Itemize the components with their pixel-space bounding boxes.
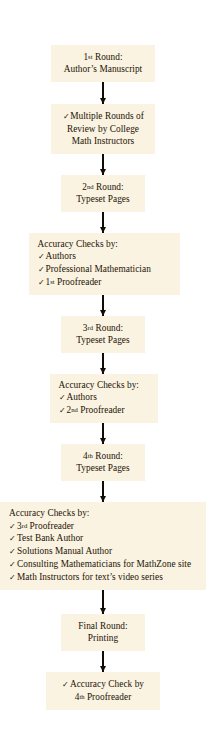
node-round-2-line-1: 2nd Round:	[69, 181, 137, 193]
check-icon: ✓	[9, 573, 17, 584]
accuracy-checks-3-item-4: ✓Consulting Mathematicians for MathZone …	[9, 558, 198, 571]
check-icon: ✓	[59, 406, 67, 417]
node-final-round: Final Round: Printing	[61, 614, 145, 651]
check-icon: ✓	[38, 278, 46, 289]
node-review-college-math-instructors: ✓Multiple Rounds of Review by College Ma…	[51, 104, 155, 154]
node-accuracy-checks-1: Accuracy Checks by: ✓Authors ✓Profession…	[29, 233, 180, 295]
check-icon: ✓	[62, 680, 70, 691]
arrow-head	[100, 169, 106, 175]
ordinal-suffix: nd	[87, 184, 94, 191]
accuracy-checks-3-item-5: ✓Math Instructors for text’s video serie…	[9, 571, 198, 584]
check-icon: ✓	[62, 112, 70, 123]
check-icon: ✓	[59, 393, 67, 404]
node-round-3-line-1: 3rd Round:	[69, 322, 137, 334]
round-label: Round:	[93, 52, 123, 62]
check-icon: ✓	[38, 265, 46, 276]
item-label: Accuracy Check by	[70, 679, 144, 689]
node-round-4-line-1: 4th Round:	[69, 450, 137, 462]
accuracy-checks-2-item-1: ✓Authors	[59, 391, 150, 404]
node-round-3: 3rd Round: Typeset Pages	[61, 316, 145, 353]
check-icon: ✓	[38, 252, 46, 263]
arrow-head	[100, 227, 106, 233]
node-round-3-line-2: Typeset Pages	[69, 334, 137, 346]
item-label: Authors	[67, 392, 97, 402]
check-icon: ✓	[9, 560, 17, 571]
arrow-head	[100, 368, 106, 374]
item-label: Test Bank Author	[17, 533, 83, 543]
node-review-line-2: Review by College	[59, 123, 147, 135]
arrow-head	[100, 496, 106, 502]
node-final-round-line-2: Printing	[69, 632, 137, 644]
item-label: Professional Mathematician	[46, 264, 151, 274]
check-icon: ✓	[9, 547, 17, 558]
node-accuracy-check-final: ✓Accuracy Check by 4th Proofreader	[46, 672, 160, 710]
node-round-1-line-2: Author’s Manuscript	[59, 63, 147, 75]
accuracy-checks-2-item-2: ✓2nd Proofreader	[59, 404, 150, 417]
arrow-head	[100, 310, 106, 316]
ordinal-suffix: nd	[71, 407, 78, 414]
arrow-down-icon	[97, 154, 109, 175]
arrow-down-icon	[97, 353, 109, 374]
node-review-line-3: Math Instructors	[59, 135, 147, 147]
accuracy-checks-3-item-2: ✓Test Bank Author	[9, 532, 198, 545]
arrow-down-icon	[97, 423, 109, 444]
accuracy-check-final-line-2: 4th Proofreader	[54, 691, 152, 703]
item-label: Authors	[46, 251, 76, 261]
item-label: Proofreader	[27, 521, 74, 531]
node-round-4-line-2: Typeset Pages	[69, 462, 137, 474]
item-label: Solutions Manual Author	[17, 546, 112, 556]
accuracy-checks-1-item-3: ✓1st Proofreader	[38, 276, 172, 289]
arrow-head	[100, 438, 106, 444]
arrow-down-icon	[97, 295, 109, 316]
arrow-down-icon	[97, 212, 109, 233]
node-round-1: 1st Round: Author’s Manuscript	[51, 45, 155, 82]
item-label: Proofreader	[55, 277, 102, 287]
accuracy-checks-3-item-1: ✓3rd Proofreader	[9, 520, 198, 533]
round-label: Round:	[94, 182, 124, 192]
node-accuracy-checks-2: Accuracy Checks by: ✓Authors ✓2nd Proofr…	[50, 374, 158, 423]
round-label: Round:	[93, 323, 123, 333]
check-icon: ✓	[9, 522, 17, 533]
arrow-down-icon	[97, 481, 109, 502]
accuracy-checks-1-item-1: ✓Authors	[38, 250, 172, 263]
arrow-head	[100, 666, 106, 672]
flowchart-container: 1st Round: Author’s Manuscript ✓Multiple…	[0, 0, 206, 731]
item-label: Proofreader	[85, 692, 132, 702]
item-label: Math Instructors for text’s video series	[17, 572, 163, 582]
node-round-2-line-2: Typeset Pages	[69, 193, 137, 205]
round-label: Round:	[93, 451, 123, 461]
accuracy-checks-2-heading: Accuracy Checks by:	[59, 379, 150, 391]
item-label: Consulting Mathematicians for MathZone s…	[17, 559, 191, 569]
arrow-head	[100, 608, 106, 614]
node-round-2: 2nd Round: Typeset Pages	[61, 175, 145, 212]
node-accuracy-checks-3: Accuracy Checks by: ✓3rd Proofreader ✓Te…	[0, 502, 206, 590]
item-label: Proofreader	[78, 405, 125, 415]
accuracy-checks-1-heading: Accuracy Checks by:	[38, 238, 172, 250]
accuracy-check-final-line-1: ✓Accuracy Check by	[54, 678, 152, 691]
node-final-round-line-1: Final Round:	[69, 620, 137, 632]
accuracy-checks-3-item-3: ✓Solutions Manual Author	[9, 545, 198, 558]
arrow-down-icon	[97, 82, 109, 104]
arrow-head	[100, 98, 106, 104]
node-review-text-1: Multiple Rounds of	[70, 111, 144, 121]
node-round-1-line-1: 1st Round:	[59, 51, 147, 63]
node-review-line-1: ✓Multiple Rounds of	[59, 110, 147, 123]
node-round-4: 4th Round: Typeset Pages	[61, 444, 145, 481]
arrow-down-icon	[97, 651, 109, 672]
arrow-down-icon	[97, 590, 109, 614]
accuracy-checks-1-item-2: ✓Professional Mathematician	[38, 263, 172, 276]
accuracy-checks-3-heading: Accuracy Checks by:	[9, 507, 198, 519]
check-icon: ✓	[9, 534, 17, 545]
